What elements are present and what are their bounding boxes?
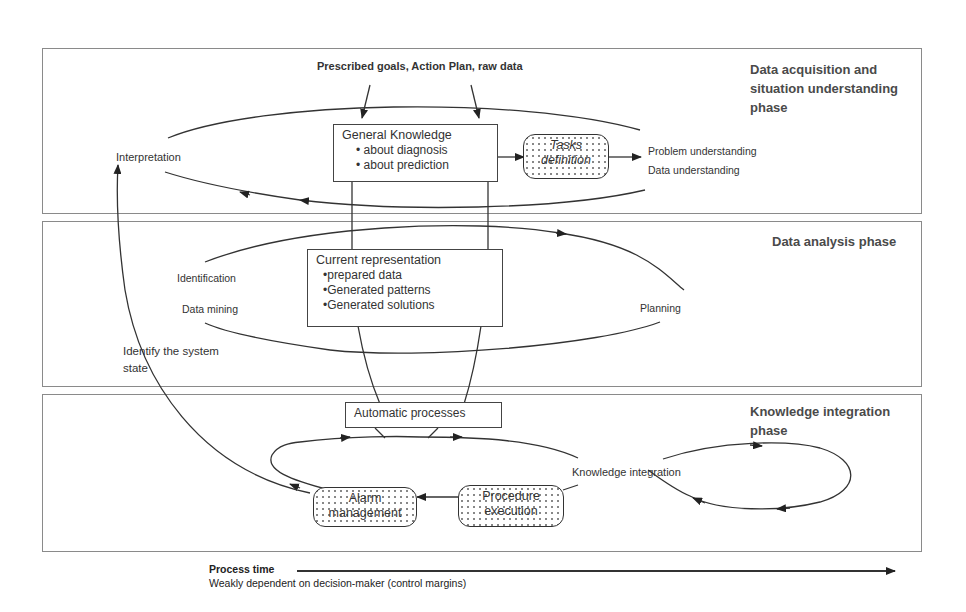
alarm-management-line: Alarm bbox=[314, 491, 416, 506]
general-knowledge-title: General Knowledge bbox=[342, 128, 489, 143]
current-representation-item: •Generated solutions bbox=[316, 298, 494, 313]
phase-title-analysis: Data analysis phase bbox=[772, 232, 896, 251]
process-time-label: Process time bbox=[209, 563, 274, 575]
phase-title-line: Data analysis phase bbox=[772, 232, 896, 251]
procedure-execution-line: Procedure bbox=[459, 489, 563, 504]
tasks-definition-line: definition bbox=[524, 153, 608, 168]
current-representation-item: •Generated patterns bbox=[316, 283, 494, 298]
planning-label: Planning bbox=[640, 302, 681, 314]
automatic-processes-box: Automatic processes bbox=[345, 402, 502, 428]
alarm-management-node: Alarm management bbox=[313, 487, 417, 527]
general-knowledge-item: • about diagnosis bbox=[342, 143, 489, 158]
current-representation-item: •prepared data bbox=[316, 268, 494, 283]
data-understanding-label: Data understanding bbox=[648, 164, 740, 176]
data-mining-label: Data mining bbox=[182, 303, 238, 315]
phase-title-line: phase bbox=[750, 98, 898, 117]
procedure-execution-node: Procedure execution bbox=[458, 485, 564, 527]
interpretation-label: Interpretation bbox=[116, 151, 181, 163]
alarm-management-line: management bbox=[314, 506, 416, 521]
identify-state-line: state bbox=[123, 360, 219, 377]
general-knowledge-item: • about prediction bbox=[342, 158, 489, 173]
phase-title-acquisition: Data acquisition and situation understan… bbox=[750, 60, 898, 117]
process-time-subtitle: Weakly dependent on decision-maker (cont… bbox=[209, 577, 466, 589]
problem-understanding-label: Problem understanding bbox=[648, 145, 757, 157]
phase-title-line: Data acquisition and bbox=[750, 60, 898, 79]
identification-label: Identification bbox=[177, 272, 236, 284]
knowledge-integration-label: Knowledge integration bbox=[572, 466, 681, 478]
tasks-definition-node: Tasks definition bbox=[523, 134, 609, 179]
inputs-label: Prescribed goals, Action Plan, raw data bbox=[317, 60, 523, 72]
automatic-processes-label: Automatic processes bbox=[354, 406, 465, 420]
tasks-definition-line: Tasks bbox=[524, 138, 608, 153]
procedure-execution-line: execution bbox=[459, 504, 563, 519]
identify-state-line: Identify the system bbox=[123, 343, 219, 360]
phase-title-line: Knowledge integration bbox=[750, 402, 890, 421]
phase-title-line: phase bbox=[750, 421, 890, 440]
identify-system-state-label: Identify the system state bbox=[123, 343, 219, 377]
phase-title-line: situation understanding bbox=[750, 79, 898, 98]
phase-title-integration: Knowledge integration phase bbox=[750, 402, 890, 440]
general-knowledge-box: General Knowledge • about diagnosis • ab… bbox=[333, 124, 498, 182]
current-representation-box: Current representation •prepared data •G… bbox=[307, 249, 503, 327]
current-representation-title: Current representation bbox=[316, 253, 494, 268]
